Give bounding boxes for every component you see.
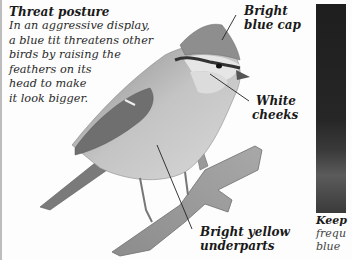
label-line: underparts xyxy=(200,239,290,253)
label-bright-yellow-underparts: Bright yellow underparts xyxy=(200,225,290,253)
label-line: blue cap xyxy=(244,18,301,32)
photo-caption-line: blue xyxy=(316,240,352,253)
adjacent-photo xyxy=(316,4,346,213)
label-line: cheeks xyxy=(252,108,296,122)
photo-caption-title: Keep xyxy=(316,214,352,227)
tail-icon xyxy=(40,163,110,210)
label-line: Bright yellow xyxy=(200,225,290,239)
photo-caption-line: frequ xyxy=(316,227,352,240)
label-bright-blue-cap: Bright blue cap xyxy=(244,4,301,32)
eye-icon xyxy=(216,64,222,69)
label-line: Bright xyxy=(244,4,301,18)
photo-caption: Keep frequ blue xyxy=(316,214,352,253)
beak-icon xyxy=(236,70,250,80)
label-white-cheeks: White cheeks xyxy=(252,94,296,122)
label-line: White xyxy=(252,94,296,108)
